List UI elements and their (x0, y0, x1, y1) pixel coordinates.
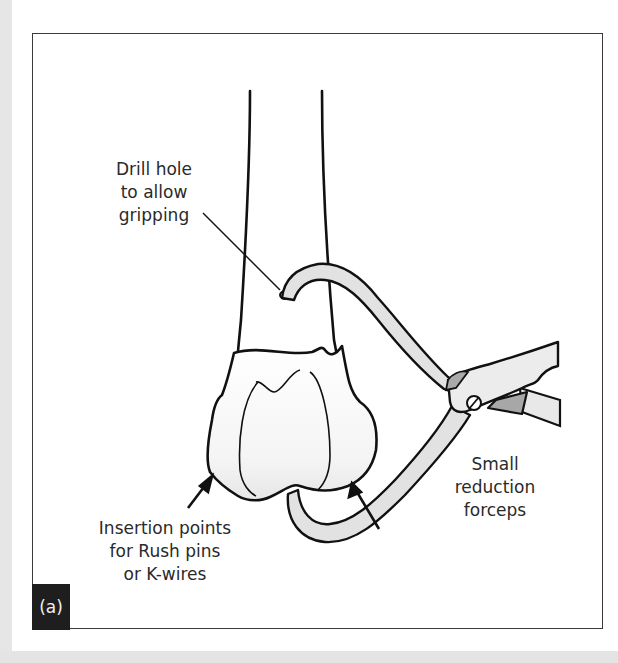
insertion-label-line-3: or K-wires (90, 563, 240, 586)
drill-hole-label-line-2: to allow (106, 181, 202, 204)
insertion-label-line-1: Insertion points (90, 517, 240, 540)
forceps-label-line-1: Small (445, 453, 545, 476)
insertion-label-line-2: for Rush pins (90, 540, 240, 563)
distal-femur-condyles (208, 346, 377, 500)
drill-hole-label: Drill hole to allow gripping (106, 158, 202, 227)
drill-hole-label-line-1: Drill hole (106, 158, 202, 181)
forceps-label-line-2: reduction (445, 476, 545, 499)
drill-hole-leader-line (203, 213, 280, 290)
insertion-points-label: Insertion points for Rush pins or K-wire… (90, 517, 240, 586)
forceps-label-line-3: forceps (445, 499, 545, 522)
forceps-label: Small reduction forceps (445, 453, 545, 522)
drill-hole-label-line-3: gripping (106, 204, 202, 227)
panel-label: (a) (32, 584, 70, 630)
